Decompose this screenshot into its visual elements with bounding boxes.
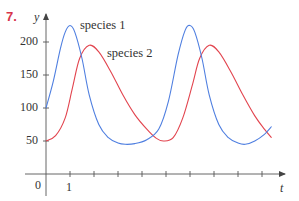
problem-number: 7. bbox=[6, 9, 17, 24]
y-tick-label-200: 200 bbox=[20, 34, 38, 48]
y-tick-label-50: 50 bbox=[26, 133, 38, 147]
y-tick-label-100: 100 bbox=[20, 100, 38, 114]
x-tick-label-1: 1 bbox=[66, 180, 72, 194]
x-axis-label: t bbox=[280, 181, 284, 195]
origin-label: 0 bbox=[35, 178, 41, 192]
species-2-label: species 2 bbox=[107, 46, 152, 60]
y-axis-label: y bbox=[33, 10, 40, 24]
species-2-curve bbox=[46, 45, 272, 141]
y-tick-label-150: 150 bbox=[20, 67, 38, 81]
population-chart: 7. y t 0 1 50 100 150 200 species 1 spec… bbox=[0, 0, 299, 201]
species-1-label: species 1 bbox=[80, 18, 125, 32]
